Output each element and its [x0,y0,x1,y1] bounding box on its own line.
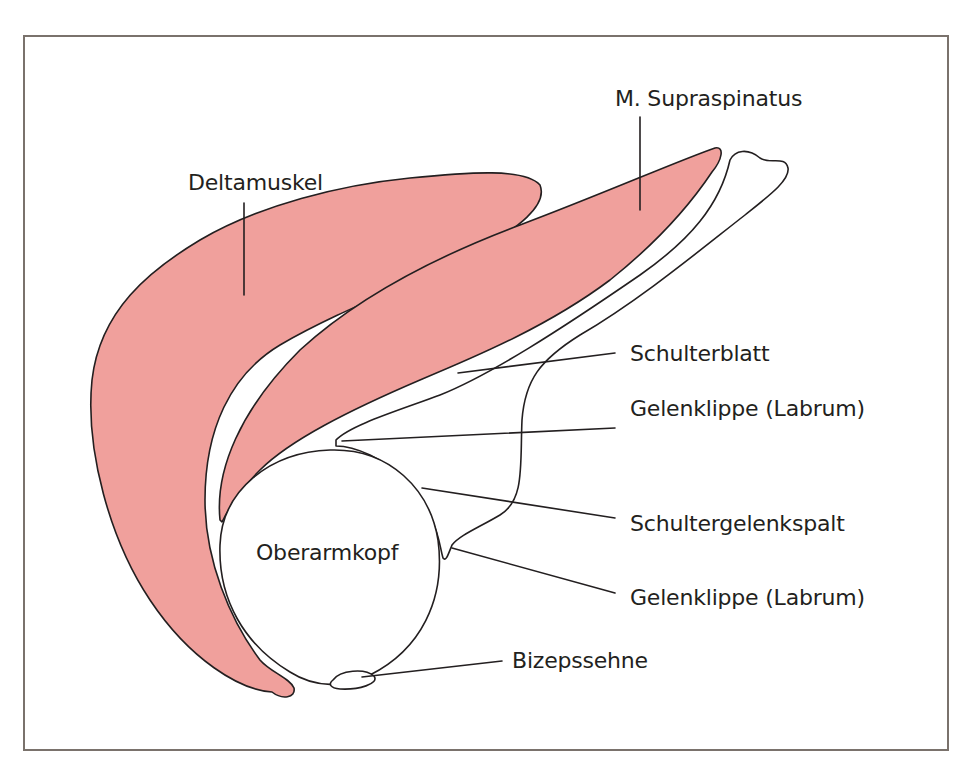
leader-labrum-lower [452,548,615,593]
label-gelenkspalt: Schultergelenkspalt [630,513,845,535]
label-labrum-upper: Gelenklippe (Labrum) [630,398,865,420]
shoulder-diagram [0,0,971,768]
label-deltamuskel: Deltamuskel [188,172,323,194]
label-bizepssehne: Bizepssehne [512,650,648,672]
label-schulterblatt: Schulterblatt [630,343,769,365]
label-labrum-lower: Gelenklippe (Labrum) [630,587,865,609]
label-supraspinatus: M. Supraspinatus [615,88,802,110]
label-oberarmkopf: Oberarmkopf [256,542,398,564]
